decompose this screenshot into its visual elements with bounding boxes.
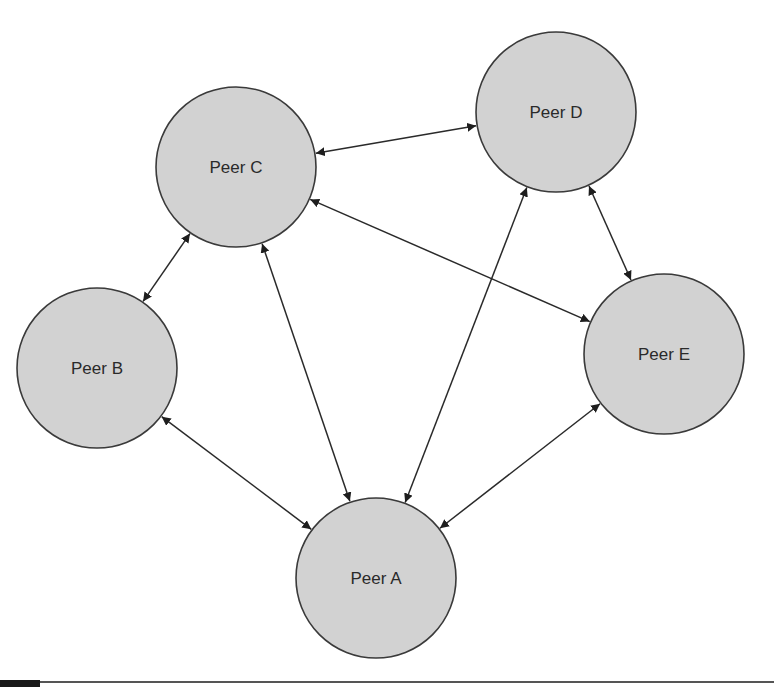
node-peer-e: Peer E	[584, 274, 744, 434]
footer-rule	[40, 681, 774, 683]
node-peer-c: Peer C	[156, 87, 316, 247]
edge-c-e	[310, 199, 590, 321]
peer-label: Peer C	[210, 158, 263, 177]
peer-label: Peer A	[350, 569, 402, 588]
edge-c-a	[262, 244, 350, 502]
peer-label: Peer B	[71, 359, 123, 378]
node-peer-b: Peer B	[17, 288, 177, 448]
node-peer-d: Peer D	[476, 32, 636, 192]
footer-rule-block	[0, 680, 40, 687]
edge-c-d	[316, 126, 476, 154]
edge-e-a	[440, 404, 600, 529]
node-peer-a: Peer A	[296, 498, 456, 658]
edge-d-e	[589, 186, 631, 280]
edge-b-a	[162, 417, 312, 530]
peer-label: Peer E	[638, 345, 690, 364]
edge-d-a	[405, 188, 527, 503]
nodes-layer: Peer APeer BPeer CPeer DPeer E	[17, 32, 744, 658]
edge-c-b	[143, 234, 190, 302]
peer-network-diagram: Peer APeer BPeer CPeer DPeer E	[0, 0, 774, 687]
peer-label: Peer D	[530, 103, 583, 122]
